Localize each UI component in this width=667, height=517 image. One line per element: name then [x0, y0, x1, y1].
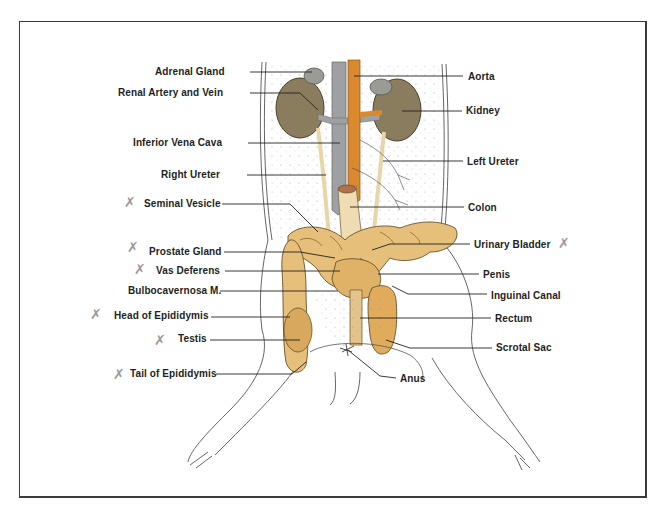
label-inferior-vena-cava: Inferior Vena Cava [133, 137, 222, 149]
rat-anatomy-illustration [0, 0, 667, 517]
right-testis [282, 240, 308, 372]
label-aorta: Aorta [468, 71, 495, 83]
label-left-ureter: Left Ureter [467, 156, 519, 168]
label-right-ureter: Right Ureter [161, 169, 220, 181]
label-vas-deferens: Vas Deferens [156, 265, 220, 277]
pencil-mark-icon: ✗ [90, 307, 102, 321]
label-bulbocavernosa: Bulbocavernosa M. [128, 285, 221, 297]
aorta [348, 60, 360, 205]
label-tail-of-epididymis: Tail of Epididymis [130, 368, 217, 380]
label-rectum: Rectum [495, 313, 532, 325]
label-seminal-vesicle: Seminal Vesicle [144, 198, 221, 210]
pencil-mark-icon: ✗ [113, 367, 125, 381]
label-urinary-bladder: Urinary Bladder [474, 239, 551, 251]
pencil-mark-icon: ✗ [124, 195, 136, 209]
label-prostate-gland: Prostate Gland [149, 246, 222, 258]
label-renal-artery-vein: Renal Artery and Vein [118, 87, 223, 99]
pencil-mark-icon: ✗ [154, 333, 166, 347]
label-adrenal-gland: Adrenal Gland [155, 66, 225, 78]
label-scrotal-sac: Scrotal Sac [496, 342, 552, 354]
right-adrenal [304, 68, 324, 84]
pencil-mark-icon: ✗ [558, 236, 570, 250]
label-inguinal-canal: Inguinal Canal [491, 290, 561, 302]
pencil-mark-icon: ✗ [127, 240, 139, 254]
label-testis: Testis [178, 333, 207, 345]
label-head-of-epididymis: Head of Epididymis [114, 310, 209, 322]
pencil-mark-icon: ✗ [134, 262, 146, 276]
label-penis: Penis [483, 269, 510, 281]
label-kidney: Kidney [466, 105, 500, 117]
label-anus: Anus [400, 373, 425, 385]
label-colon: Colon [468, 202, 497, 214]
left-adrenal [370, 79, 392, 95]
